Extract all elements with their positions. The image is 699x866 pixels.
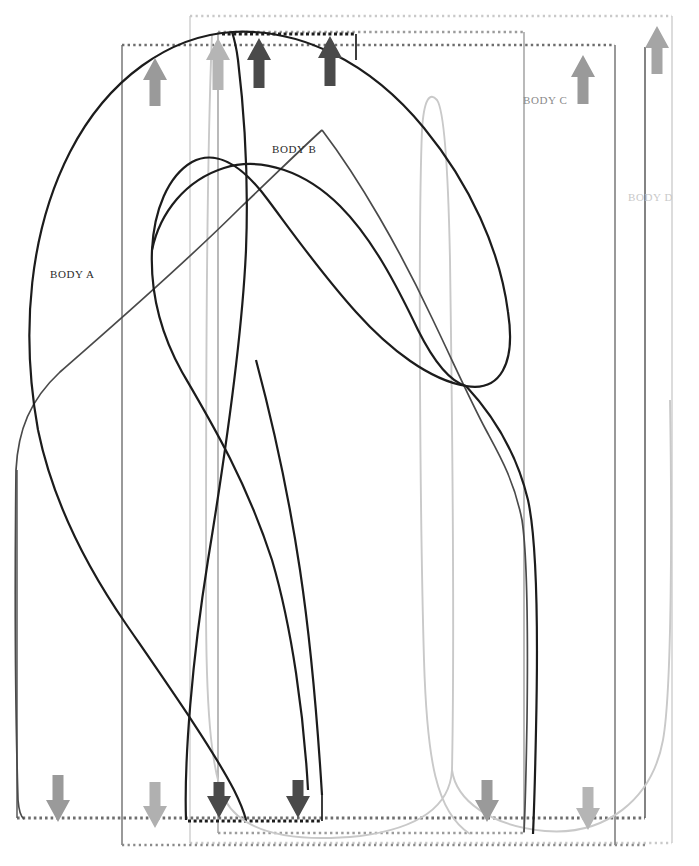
arrow-up-icon bbox=[318, 36, 342, 86]
bounding-box-body-d bbox=[190, 16, 672, 843]
arrow-down-5 bbox=[475, 780, 499, 822]
label-body-b: BODY B bbox=[272, 143, 316, 155]
arrow-up-icon bbox=[571, 55, 595, 104]
curve-black-inner-left bbox=[186, 32, 247, 820]
bounding-box-body-a bbox=[17, 47, 645, 818]
arrow-up-icon bbox=[645, 26, 669, 74]
curve-darkgray-right-descender bbox=[322, 130, 527, 832]
arrow-up-4 bbox=[318, 36, 342, 86]
arrow-up-6 bbox=[645, 26, 669, 74]
bounding-box-body-c bbox=[218, 32, 524, 833]
arrow-down-4 bbox=[286, 780, 310, 818]
curve-black-inner-right-descender bbox=[256, 360, 322, 795]
arrow-down-icon bbox=[207, 782, 231, 818]
label-body-c: BODY C bbox=[523, 94, 567, 106]
arrow-up-icon bbox=[143, 58, 167, 106]
bounding-box-body-b bbox=[122, 45, 645, 845]
arrow-up-icon bbox=[247, 38, 271, 88]
body-overlap-svg bbox=[0, 0, 699, 866]
label-body-d: BODY D bbox=[628, 191, 673, 203]
arrow-down-icon bbox=[286, 780, 310, 818]
arrow-up-1 bbox=[143, 58, 167, 106]
arrow-down-2 bbox=[143, 782, 167, 828]
curve-lightgray-right-lobe bbox=[452, 400, 671, 831]
label-body-a: BODY A bbox=[50, 268, 94, 280]
arrow-up-5 bbox=[571, 55, 595, 104]
curve-darkgray-upper bbox=[16, 130, 322, 470]
arrow-down-icon bbox=[46, 775, 70, 822]
arrow-down-3 bbox=[207, 782, 231, 818]
diagram-canvas: BODY A BODY B BODY C BODY D bbox=[0, 0, 699, 866]
arrow-down-1 bbox=[46, 775, 70, 822]
arrow-up-3 bbox=[247, 38, 271, 88]
arrow-down-icon bbox=[475, 780, 499, 822]
arrow-down-icon bbox=[143, 782, 167, 828]
